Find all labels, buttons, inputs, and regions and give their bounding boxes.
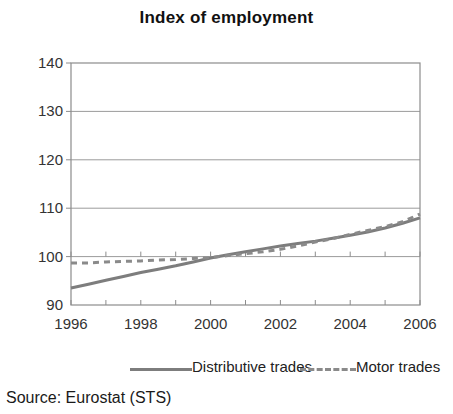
legend-swatch-distributive-trades	[130, 368, 192, 371]
source-note: Source: Eurostat (STS)	[6, 389, 171, 407]
x-axis-tick-label: 1996	[41, 315, 101, 332]
legend-label-motor-trades: Motor trades	[356, 358, 440, 375]
chart-legend: Distributive trades Motor trades	[0, 358, 453, 386]
y-axis-tick-label: 110	[19, 199, 63, 216]
axis-frame	[71, 63, 420, 305]
x-tick-marks	[66, 63, 420, 305]
series-line-distributive-trades	[71, 218, 420, 288]
x-axis-tick-label: 2000	[181, 315, 241, 332]
series-lines	[71, 214, 420, 288]
y-axis-tick-label: 120	[19, 151, 63, 168]
y-axis-tick-label: 140	[19, 54, 63, 71]
y-axis-tick-label: 130	[19, 102, 63, 119]
gridlines	[71, 111, 420, 256]
plot-border	[71, 63, 420, 305]
chart-plot-area: 90100110120130140 1996199820002002200420…	[0, 0, 453, 414]
x-axis-tick-label: 1998	[111, 315, 171, 332]
x-axis-tick-label: 2002	[250, 315, 310, 332]
chart-svg	[0, 0, 453, 414]
x-axis-tick-label: 2006	[390, 315, 450, 332]
y-axis-tick-label: 100	[19, 248, 63, 265]
legend-label-distributive-trades: Distributive trades	[192, 358, 312, 375]
legend-swatch-motor-trades	[300, 368, 356, 371]
x-axis-tick-label: 2004	[320, 315, 380, 332]
y-axis-tick-label: 90	[19, 296, 63, 313]
